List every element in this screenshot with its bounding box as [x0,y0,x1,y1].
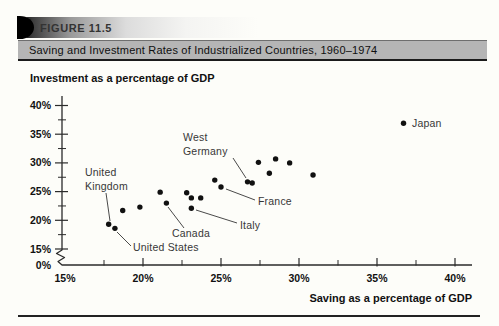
data-point [250,180,255,185]
scatter-chart: 15%20%25%30%35%40%0%15%20%25%30%35%40%In… [0,60,499,315]
leader-line [233,158,246,178]
data-point [310,172,315,177]
data-point-canada [164,200,169,205]
data-point [120,208,125,213]
data-point [256,160,261,165]
y-tick-label: 25% [30,185,52,197]
data-point [184,190,189,195]
data-point [273,156,278,161]
country-label-italy: Italy [240,219,261,231]
figure-label-bar: FIGURE 11.5 [18,17,258,38]
data-point [189,195,194,200]
country-label-west-germany: WestGermany [183,131,228,157]
x-tick-label: 25% [210,272,232,284]
y-axis-title: Investment as a percentage of GDP [30,72,215,84]
country-label-france: France [258,195,292,207]
data-point-japan [401,121,406,126]
data-point-italy [189,206,194,211]
leader-line [106,193,110,221]
country-label-united-states: United States [133,241,199,253]
x-tick-label: 35% [366,272,388,284]
leader-line [226,189,255,200]
x-tick-label: 15% [54,272,76,284]
x-tick-label: 30% [288,272,310,284]
y-tick-label: 20% [30,214,52,226]
country-label-canada: Canada [172,227,210,239]
leader-line [168,207,184,228]
data-point [198,195,203,200]
figure-title-bar: Saving and Investment Rates of Industria… [18,40,487,61]
y-tick-label: 40% [30,99,52,111]
data-point [157,189,162,194]
data-point-france [218,184,223,189]
y-tick-label: 30% [30,156,52,168]
figure-label-cap [17,16,34,39]
data-point-united-kingdom [106,222,111,227]
figure-number: FIGURE 11.5 [40,22,112,34]
data-point-united-states [112,226,117,231]
leader-line [117,232,131,246]
country-label-japan: Japan [412,117,442,129]
figure-title: Saving and Investment Rates of Industria… [29,44,377,56]
country-label-united-kingdom: UnitedKingdom [85,166,128,192]
y-tick-label: 15% [30,243,52,255]
y-origin-label: 0% [36,259,52,271]
data-point-west-germany [245,179,250,184]
data-point [267,171,272,176]
x-tick-label: 20% [132,272,154,284]
x-axis-title: Saving as a percentage of GDP [309,292,472,304]
x-tick-label: 40% [444,272,466,284]
data-point [287,160,292,165]
data-point [137,204,142,209]
bottom-rule [18,315,480,317]
y-tick-label: 35% [30,128,52,140]
leader-line [196,210,237,223]
data-point [212,177,217,182]
